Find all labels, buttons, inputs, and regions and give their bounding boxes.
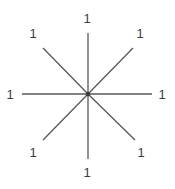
star-diagram: 11111111	[0, 0, 175, 189]
ray-label-up-right: 1	[136, 26, 143, 41]
ray-label-up: 1	[83, 11, 90, 26]
center-dot	[86, 92, 90, 96]
ray-label-left: 1	[6, 87, 13, 102]
ray-label-down-right: 1	[137, 145, 144, 160]
ray-label-right: 1	[158, 87, 165, 102]
ray-label-up-left: 1	[29, 26, 36, 41]
ray-line-down-right	[88, 94, 135, 140]
ray-line-down-left	[43, 94, 88, 140]
star-diagram-container: 11111111	[0, 0, 175, 189]
ray-line-up-left	[43, 48, 88, 94]
ray-line-up-right	[88, 48, 133, 94]
ray-label-down: 1	[83, 165, 90, 180]
ray-label-down-left: 1	[29, 145, 36, 160]
